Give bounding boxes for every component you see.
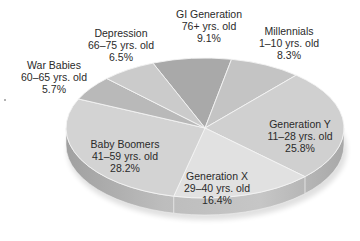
label-baby-boomers: Baby Boomers 41–59 yrs. old 28.2% — [91, 138, 160, 174]
slice-ages: 11–28 yrs. old — [267, 130, 332, 142]
slice-name: GI Generation — [176, 8, 242, 20]
slice-name: Generation X — [184, 170, 250, 182]
slice-name: Generation Y — [267, 118, 332, 130]
slice-percent: 8.3% — [259, 49, 319, 61]
slice-name: Depression — [88, 27, 154, 39]
slice-percent: 16.4% — [184, 194, 250, 206]
slice-ages: 66–75 yrs. old — [88, 39, 154, 51]
slice-percent: 25.8% — [267, 142, 332, 154]
label-generation-y: Generation Y 11–28 yrs. old 25.8% — [267, 118, 332, 154]
label-war-babies: War Babies 60–65 yrs. old 5.7% — [21, 59, 87, 95]
slice-ages: 41–59 yrs. old — [91, 150, 160, 162]
slice-ages: 76+ yrs. old — [176, 20, 242, 32]
slice-name: Millennials — [259, 25, 319, 37]
slice-name: Baby Boomers — [91, 138, 160, 150]
label-millennials: Millennials 1–10 yrs. old 8.3% — [259, 25, 319, 61]
slice-percent: 9.1% — [176, 32, 242, 44]
label-generation-x: Generation X 29–40 yrs. old 16.4% — [184, 170, 250, 206]
slice-ages: 60–65 yrs. old — [21, 71, 87, 83]
label-gi-generation: GI Generation 76+ yrs. old 9.1% — [176, 8, 242, 44]
label-depression: Depression 66–75 yrs. old 6.5% — [88, 27, 154, 63]
slice-ages: 1–10 yrs. old — [259, 37, 319, 49]
stray-dot — [4, 99, 6, 101]
slice-ages: 29–40 yrs. old — [184, 182, 250, 194]
slice-percent: 6.5% — [88, 51, 154, 63]
slice-percent: 5.7% — [21, 83, 87, 95]
slice-percent: 28.2% — [91, 162, 160, 174]
slice-name: War Babies — [21, 59, 87, 71]
